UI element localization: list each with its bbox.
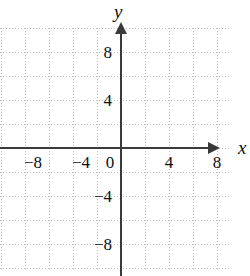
grid-line-vertical (1, 28, 2, 271)
x-tick-label-8: 8 (200, 154, 234, 171)
grid-line-horizontal (0, 172, 229, 173)
y-axis-label: y (114, 2, 122, 21)
grid-line-horizontal (0, 52, 229, 53)
grid-line-horizontal (0, 124, 229, 125)
x-axis-label: x (238, 138, 246, 157)
grid-line-vertical (145, 28, 146, 271)
grid-line-horizontal (0, 220, 229, 221)
grid-line-horizontal (0, 196, 229, 197)
grid-line-vertical (193, 28, 194, 271)
y-tick-label-4: 4 (78, 92, 112, 109)
x-axis-line (0, 147, 212, 149)
y-tick-label-minus-4: −4 (78, 188, 112, 205)
grid-line-vertical (49, 28, 50, 271)
grid-line-horizontal (0, 100, 229, 101)
x-tick-label-minus-8: −8 (16, 154, 50, 171)
y-tick-label-minus-8: −8 (78, 236, 112, 253)
grid-background (0, 28, 229, 271)
y-axis-arrow-icon (115, 22, 127, 34)
x-tick-label-4: 4 (152, 154, 186, 171)
grid-line-horizontal (0, 244, 229, 245)
coordinate-plane-figure: y x −8 −4 0 4 8 8 4 −4 −8 (0, 0, 250, 276)
origin-label: 0 (93, 154, 127, 171)
grid-line-horizontal (0, 76, 229, 77)
y-tick-label-8: 8 (78, 44, 112, 61)
grid-line-vertical (25, 28, 26, 271)
grid-line-horizontal (0, 268, 229, 269)
grid-line-vertical (169, 28, 170, 271)
grid-line-vertical (73, 28, 74, 271)
